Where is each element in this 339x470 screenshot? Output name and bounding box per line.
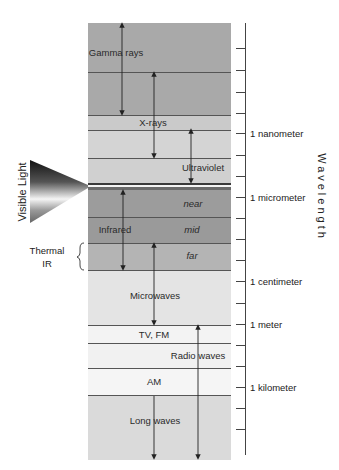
tick (236, 48, 245, 49)
tick (236, 429, 245, 430)
visible-light-label: Visible Light (16, 162, 28, 221)
label-ir-near: near (183, 198, 202, 209)
label-microwaves: Microwaves (130, 290, 180, 301)
thermal-ir-label: IR (42, 258, 52, 269)
tick (236, 281, 245, 282)
tick (236, 303, 245, 304)
label-ultraviolet: Ultraviolet (182, 162, 224, 173)
label-tv-fm: TV, FM (139, 329, 169, 340)
label-x-rays: X-rays (139, 117, 166, 128)
label-radio-waves: Radio waves (171, 350, 225, 361)
tick (236, 345, 245, 346)
label-gamma-rays: Gamma rays (89, 47, 143, 58)
label-ir-mid: mid (184, 224, 199, 235)
tick (236, 387, 245, 388)
tick (236, 366, 245, 367)
tick (236, 155, 245, 156)
tick (236, 92, 245, 93)
tick (236, 260, 245, 261)
scale-label-centimeter: 1 centimeter (250, 276, 302, 287)
tick (236, 133, 245, 134)
tick (236, 239, 245, 240)
tick (236, 197, 245, 198)
label-infrared: Infrared (99, 224, 132, 235)
tick (236, 218, 245, 219)
label-ir-far: far (186, 250, 197, 261)
scale-label-micrometer: 1 micrometer (250, 192, 305, 203)
wavelength-axis (245, 23, 246, 455)
label-long-waves: Long waves (130, 415, 181, 426)
scale-label-nanometer: 1 nanometer (250, 128, 303, 139)
scale-label-meter: 1 meter (250, 319, 282, 330)
tick (236, 176, 245, 177)
thermal-ir-brace-icon (77, 243, 84, 270)
tick (236, 70, 245, 71)
tick (236, 324, 245, 325)
scale-label-kilometer: 1 kilometer (250, 382, 296, 393)
wavelength-axis-title: Wavelength (316, 153, 328, 241)
arrows-layer (0, 0, 339, 470)
thermal-label: Thermal (30, 245, 65, 256)
tick (236, 113, 245, 114)
label-am: AM (147, 376, 161, 387)
visible-light-cone (30, 160, 88, 223)
tick (236, 408, 245, 409)
